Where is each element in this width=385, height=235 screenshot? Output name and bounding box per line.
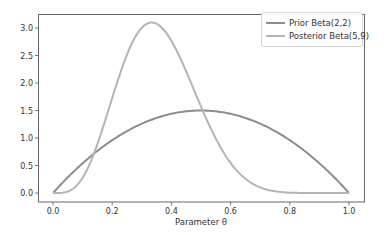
y-tick-label: 3.0 <box>20 24 33 33</box>
x-tick-label: 0.4 <box>165 207 178 216</box>
x-tick-label: 0.6 <box>224 207 237 216</box>
y-tick-label: 1.0 <box>20 134 33 143</box>
y-tick-label: 0.5 <box>20 162 33 171</box>
y-tick-label: 0.0 <box>20 189 33 198</box>
y-tick-label: 2.0 <box>20 79 33 88</box>
x-tick-label: 0.0 <box>47 207 60 216</box>
x-tick-label: 0.2 <box>106 207 119 216</box>
x-axis-label: Parameter θ <box>175 217 227 227</box>
x-tick-label: 0.8 <box>283 207 296 216</box>
y-tick-label: 1.5 <box>20 107 33 116</box>
legend: Prior Beta(2,2) Posterior Beta(5,9) <box>262 13 370 47</box>
chart-canvas: 0.00.20.40.60.81.0 0.00.51.01.52.02.53.0… <box>0 0 385 235</box>
x-tick-label: 1.0 <box>343 207 356 216</box>
legend-label-posterior: Posterior Beta(5,9) <box>289 31 369 41</box>
y-tick-label: 2.5 <box>20 52 33 61</box>
legend-label-prior: Prior Beta(2,2) <box>289 18 351 28</box>
